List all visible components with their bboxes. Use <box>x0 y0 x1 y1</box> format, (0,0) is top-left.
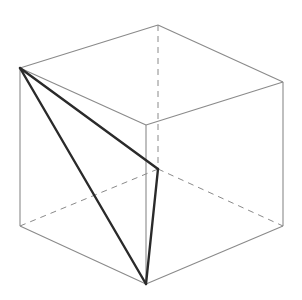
hidden-edge-HG <box>158 169 283 226</box>
inscribed-triangle <box>20 68 158 284</box>
cube-svg <box>0 0 302 300</box>
edge-CD <box>146 82 283 125</box>
triangle-edge-FA <box>20 68 146 284</box>
edge-DA <box>20 68 146 125</box>
cube-diagram <box>0 0 302 300</box>
edge-EF <box>20 226 146 284</box>
triangle-edge-HF <box>146 169 158 284</box>
edge-FG <box>146 226 283 284</box>
visible-edges <box>20 25 283 284</box>
triangle-edge-AH <box>20 68 158 169</box>
edge-BC <box>158 25 283 82</box>
edge-AB <box>20 25 158 68</box>
hidden-edge-EH <box>20 169 158 226</box>
